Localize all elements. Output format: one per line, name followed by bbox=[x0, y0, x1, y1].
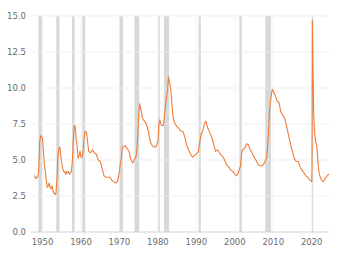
y-axis-tick-label: 12.5 bbox=[7, 47, 26, 57]
x-axis-tick-label: 1990 bbox=[186, 237, 208, 247]
x-axis-tick-label: 2020 bbox=[301, 237, 323, 247]
y-axis-tick-label: 5.0 bbox=[12, 155, 26, 165]
x-axis-tick-label: 1950 bbox=[32, 237, 54, 247]
y-axis-tick-label: 0.0 bbox=[12, 227, 26, 237]
x-axis-tick-label: 2010 bbox=[262, 237, 284, 247]
y-axis-tick-label: 2.5 bbox=[12, 191, 26, 201]
y-axis-tick-label: 10.0 bbox=[7, 83, 26, 93]
x-axis-tick-label: 1980 bbox=[147, 237, 169, 247]
x-axis-tick-label: 1960 bbox=[70, 237, 92, 247]
x-axis-tick-label: 2000 bbox=[224, 237, 246, 247]
x-axis-tick-label: 1970 bbox=[109, 237, 131, 247]
y-axis-tick-label: 15.0 bbox=[7, 11, 26, 21]
unemployment-rate-chart: 0.02.55.07.510.012.515.0 195019601970198… bbox=[0, 0, 339, 262]
chart-canvas: 0.02.55.07.510.012.515.0 195019601970198… bbox=[0, 0, 339, 262]
y-axis-tick-label: 7.5 bbox=[12, 119, 26, 129]
